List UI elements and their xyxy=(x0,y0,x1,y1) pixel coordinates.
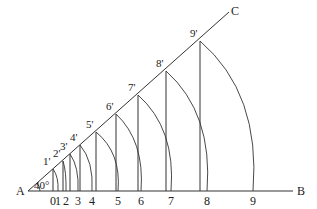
base-label: 4 xyxy=(89,194,95,208)
construction-arc xyxy=(70,154,78,191)
ray-labels: 1'2'3'4'5'6'7'8'9' xyxy=(43,27,198,167)
construction-lines xyxy=(53,41,254,191)
base-label: 1 xyxy=(55,194,61,208)
construction-arc xyxy=(166,71,208,191)
line-ac xyxy=(28,12,229,191)
base-label: 7 xyxy=(168,194,174,208)
ray-label: 1' xyxy=(43,155,51,167)
ray-label: 7' xyxy=(128,81,136,93)
construction-diagram: A B C 40° 0123456789 1'2'3'4'5'6'7'8'9' xyxy=(0,0,317,209)
ray-label: 6' xyxy=(106,100,114,112)
base-label: 3 xyxy=(75,194,81,208)
label-c: C xyxy=(231,4,239,18)
construction-arc xyxy=(80,145,92,191)
ray-label: 8' xyxy=(156,57,164,69)
diagram-canvas: A B C 40° 0123456789 1'2'3'4'5'6'7'8'9' xyxy=(0,0,317,209)
construction-arc xyxy=(138,95,172,191)
label-b: B xyxy=(297,184,305,198)
base-label: 6 xyxy=(138,194,144,208)
ray-label: 3' xyxy=(60,140,68,152)
label-a: A xyxy=(16,184,25,198)
base-labels: 0123456789 xyxy=(50,194,256,208)
base-label: 9 xyxy=(250,194,256,208)
angle-label: 40° xyxy=(34,179,49,191)
ray-label: 5' xyxy=(86,118,94,130)
construction-arc xyxy=(53,169,58,191)
base-label: 8 xyxy=(204,194,210,208)
base-label: 2 xyxy=(63,194,69,208)
ray-label: 9' xyxy=(190,27,198,39)
construction-arc xyxy=(96,132,118,191)
ray-label: 4' xyxy=(70,131,78,143)
base-label: 5 xyxy=(115,194,121,208)
